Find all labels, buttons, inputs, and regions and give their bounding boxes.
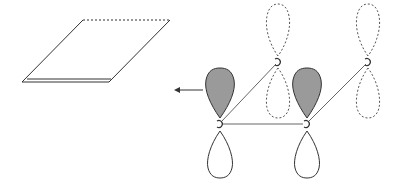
solid-lobe <box>295 131 320 178</box>
solid-lobe <box>208 131 233 178</box>
dashed-lobe-upper <box>266 4 289 56</box>
atom-a1 <box>206 68 235 178</box>
dashed-lobe-lower <box>356 68 379 118</box>
dashed-lobe-lower <box>266 68 289 118</box>
atom-node <box>217 121 222 128</box>
shaded-lobe <box>206 68 235 118</box>
atom-b2 <box>356 4 379 118</box>
arrow-left-icon <box>174 87 203 93</box>
atom-node <box>304 121 309 128</box>
atom-b1 <box>266 4 289 118</box>
dashed-lobe-upper <box>356 4 379 56</box>
planar-sheet <box>22 20 170 82</box>
orbital-diagram <box>0 0 393 189</box>
shaded-lobe <box>293 68 322 118</box>
atom-a2 <box>293 68 322 178</box>
